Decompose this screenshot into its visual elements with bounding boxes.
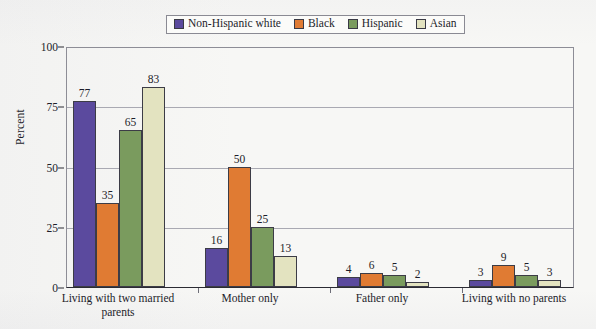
y-axis-tick-50: 50 [47, 162, 59, 174]
bar-black: 6 [360, 273, 383, 287]
bar-value-label: 13 [280, 242, 292, 254]
bar-value-label: 65 [125, 116, 137, 128]
bar-rect [383, 275, 406, 287]
bar-value-label: 5 [392, 261, 398, 273]
bar-group-1: 77356583 [73, 87, 165, 287]
x-axis-label-4: Living with no parents [434, 292, 594, 306]
legend-label: Black [308, 18, 335, 30]
y-axis-tick-75: 75 [47, 101, 59, 113]
y-axis-tick-mark [58, 107, 64, 108]
bar-rect [360, 273, 383, 287]
bar-hispanic: 25 [251, 227, 274, 287]
x-axis-tick-mark-2 [330, 288, 331, 293]
bar-value-label: 16 [211, 234, 223, 246]
y-axis-tick-100: 100 [41, 41, 58, 53]
x-axis-label-line: Living with no parents [434, 292, 594, 306]
bar-rect [251, 227, 274, 287]
legend-item-black: Black [294, 18, 335, 30]
bar-group-4: 3953 [469, 265, 561, 287]
legend-item-non-hispanic-white: Non-Hispanic white [174, 18, 281, 30]
bar-asian: 13 [274, 256, 297, 287]
bar-group-3: 4652 [337, 273, 429, 287]
legend-label: Non-Hispanic white [188, 18, 281, 30]
bar-black: 35 [96, 203, 119, 287]
bar-rect [538, 280, 561, 287]
bar-value-label: 35 [102, 189, 114, 201]
bar-value-label: 5 [524, 261, 530, 273]
plot-area: 773565831650251346523953 [66, 47, 574, 288]
y-axis-tick-mark [58, 288, 64, 289]
bar-value-label: 77 [79, 87, 91, 99]
bar-non-hispanic-white: 3 [469, 280, 492, 287]
legend-swatch-icon [348, 19, 358, 29]
bar-black: 9 [492, 265, 515, 287]
legend-swatch-icon [174, 19, 184, 29]
bar-group-2: 16502513 [205, 167, 297, 288]
bar-rect [274, 256, 297, 287]
bar-non-hispanic-white: 77 [73, 101, 96, 287]
bar-value-label: 50 [234, 153, 246, 165]
x-axis-tick-mark-3 [462, 288, 463, 293]
x-axis-tick-mark-1 [198, 288, 199, 293]
bar-asian: 3 [538, 280, 561, 287]
y-axis-tick-mark [58, 47, 64, 48]
bar-value-label: 2 [415, 268, 421, 280]
bar-rect [492, 265, 515, 287]
bar-value-label: 25 [257, 213, 269, 225]
y-axis-tick-mark [58, 227, 64, 228]
chart-legend: Non-Hispanic whiteBlackHispanicAsian [166, 15, 465, 34]
bar-rect [119, 130, 142, 287]
bar-asian: 83 [142, 87, 165, 287]
y-axis-tick-labels: 0255075100 [0, 40, 66, 290]
bar-rect [142, 87, 165, 287]
legend-swatch-icon [416, 19, 426, 29]
bar-hispanic: 5 [383, 275, 406, 287]
x-axis-label-line: parents [38, 306, 198, 320]
bar-non-hispanic-white: 16 [205, 248, 228, 287]
bar-asian: 2 [406, 282, 429, 287]
bar-black: 50 [228, 167, 251, 288]
bar-hispanic: 65 [119, 130, 142, 287]
bar-rect [228, 167, 251, 288]
bar-value-label: 3 [478, 266, 484, 278]
bar-rect [515, 275, 538, 287]
bar-hispanic: 5 [515, 275, 538, 287]
bar-non-hispanic-white: 4 [337, 277, 360, 287]
bar-rect [406, 282, 429, 287]
legend-label: Hispanic [362, 18, 403, 30]
bar-rect [73, 101, 96, 287]
bar-rect [469, 280, 492, 287]
bar-value-label: 4 [346, 263, 352, 275]
bar-value-label: 6 [369, 259, 375, 271]
bar-value-label: 83 [148, 73, 160, 85]
legend-label: Asian [430, 18, 457, 30]
bar-value-label: 3 [547, 266, 553, 278]
bar-rect [96, 203, 119, 287]
legend-item-hispanic: Hispanic [348, 18, 403, 30]
bar-value-label: 9 [501, 251, 507, 263]
bar-rect [337, 277, 360, 287]
legend-swatch-icon [294, 19, 304, 29]
y-axis-tick-25: 25 [47, 222, 59, 234]
y-axis-tick-mark [58, 167, 64, 168]
legend-item-asian: Asian [416, 18, 457, 30]
bar-rect [205, 248, 228, 287]
